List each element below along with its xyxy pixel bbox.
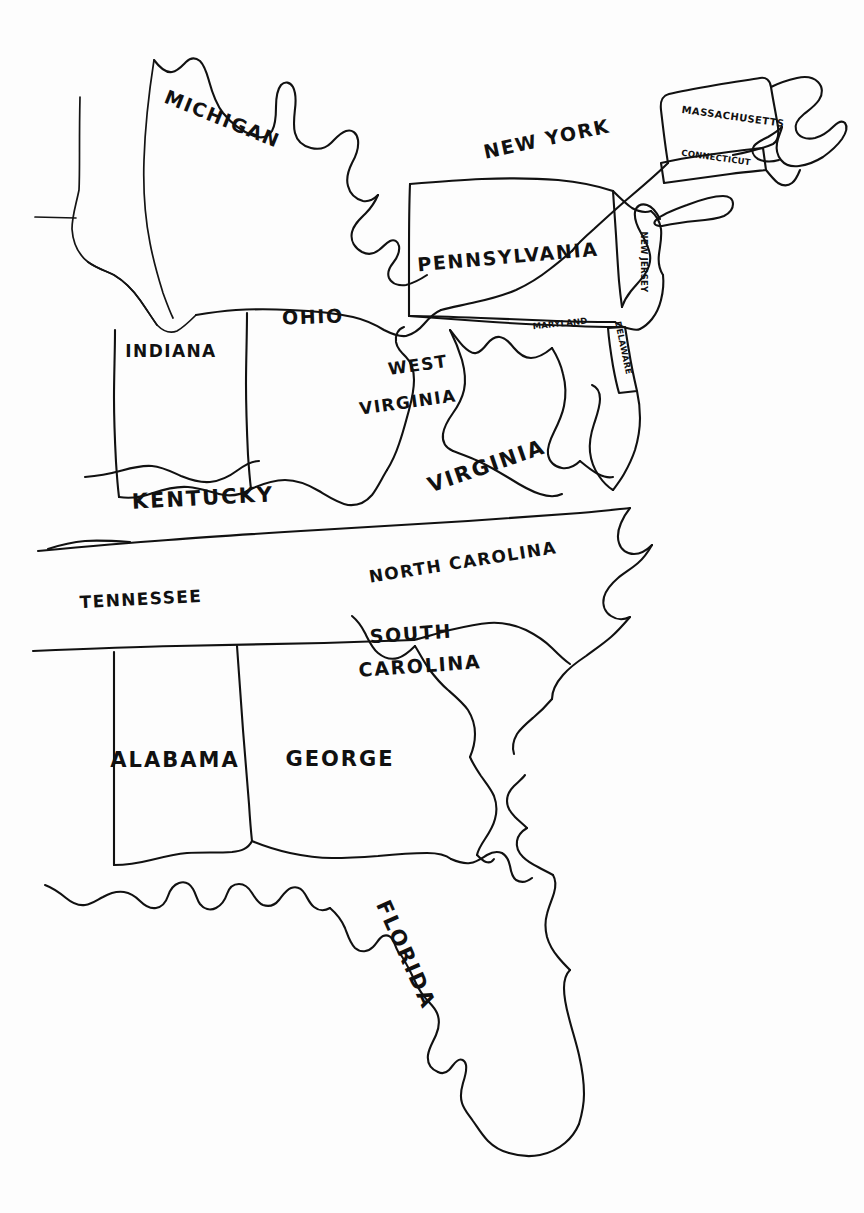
hand-drawn-map-canvas: MICHIGAN NEW YORK MASSACHUSETTS CONNECTI…	[0, 0, 864, 1213]
map-drawing: MICHIGAN NEW YORK MASSACHUSETTS CONNECTI…	[0, 0, 864, 1213]
state-label-indiana: INDIANA	[125, 341, 216, 361]
left-latitude-tick	[35, 217, 76, 218]
state-label-ohio: OHIO	[282, 304, 345, 328]
state-label-george: GEORGE	[285, 747, 394, 771]
state-label-alabama: ALABAMA	[110, 748, 239, 772]
state-label-new-jersey: NEW JERSEY	[639, 232, 649, 293]
pennsylvania-west-border	[409, 184, 410, 316]
